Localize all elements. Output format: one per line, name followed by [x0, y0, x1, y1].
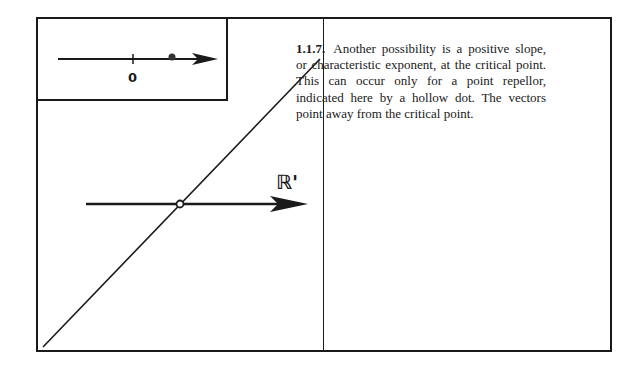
figure-panel: ℝ' 0	[38, 19, 323, 350]
filled-dot-icon	[169, 54, 176, 61]
figure-caption: 1.1.7.Another possibility is a positive …	[296, 41, 546, 122]
inset-plot: 0	[38, 19, 226, 99]
axis-label: ℝ'	[276, 170, 298, 194]
caption-text: Another possibility is a positive slope,…	[296, 41, 546, 121]
inset-box: 0	[38, 19, 228, 101]
hollow-dot-icon	[177, 201, 184, 208]
origin-label: 0	[128, 70, 137, 85]
figure-number: 1.1.7.	[296, 41, 325, 56]
